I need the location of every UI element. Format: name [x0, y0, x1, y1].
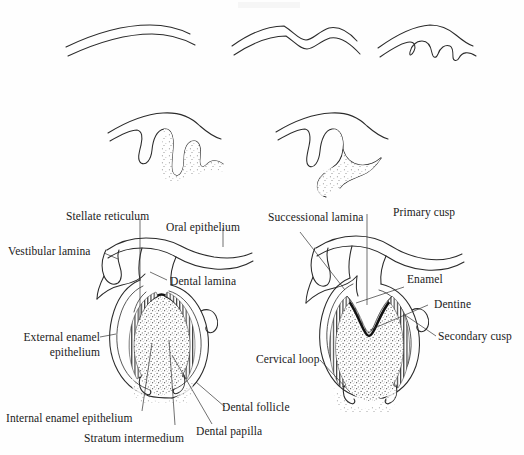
- label-dental-papilla: Dental papilla: [196, 425, 262, 438]
- label-vestibular-lamina: Vestibular lamina: [8, 245, 91, 258]
- label-primary-cusp: Primary cusp: [393, 206, 455, 219]
- label-secondary-cusp: Secondary cusp: [438, 330, 512, 343]
- label-internal-enamel-epithelium: Internal enamel epithelium: [6, 412, 133, 425]
- label-external-enamel-epithelium: External enamel epithelium: [8, 330, 100, 360]
- label-dental-lamina: Dental lamina: [170, 275, 236, 288]
- row2-stage2-advanced-cap: [276, 113, 388, 197]
- row3-right-bell-germ: [306, 236, 464, 412]
- row2-stage1-cap: [108, 113, 223, 182]
- label-successional-lamina: Successional lamina: [268, 211, 363, 224]
- row1-stage2-bud: [232, 26, 360, 55]
- row3-left-bell-germ: [97, 238, 253, 404]
- label-enamel: Enamel: [407, 273, 443, 286]
- label-dental-follicle: Dental follicle: [222, 401, 290, 414]
- odontogenesis-figure: [0, 0, 524, 455]
- row1-stage1-thickening: [66, 25, 195, 56]
- label-dentine: Dentine: [434, 298, 471, 311]
- row1-stage3-early-cap: [378, 25, 476, 61]
- label-stellate-reticulum: Stellate reticulum: [66, 210, 149, 223]
- label-cervical-loop: Cervical loop: [256, 353, 320, 366]
- label-stratum-intermedium: Stratum intermedium: [84, 432, 184, 445]
- label-oral-epithelium: Oral epithelium: [166, 221, 240, 234]
